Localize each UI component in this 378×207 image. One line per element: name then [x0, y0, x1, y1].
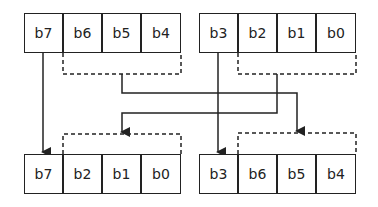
- bit-cell: b4: [141, 13, 181, 53]
- bit-cell: b1: [277, 13, 316, 53]
- bit-cell: b2: [238, 13, 277, 53]
- bit-cell: b1: [102, 154, 141, 194]
- bit-cell: b6: [238, 154, 277, 194]
- bit-cell: b7: [24, 13, 63, 53]
- bit-cell: b7: [24, 154, 63, 194]
- dashed-group-bottom-left: [63, 134, 181, 154]
- bit-cell: b5: [102, 13, 141, 53]
- bit-cell: b4: [316, 154, 356, 194]
- bit-cell: b3: [199, 13, 238, 53]
- dashed-group-top-right: [238, 53, 356, 74]
- dashed-group-top-left: [63, 53, 181, 74]
- arrow-b2-b0-to-left: [122, 74, 277, 132]
- bit-cell: b6: [63, 13, 102, 53]
- bit-cell: b2: [63, 154, 102, 194]
- dashed-group-bottom-right: [238, 133, 356, 154]
- bit-cell: b0: [141, 154, 181, 194]
- bit-cell: b0: [316, 13, 356, 53]
- bit-cell: b5: [277, 154, 316, 194]
- bit-cell: b3: [199, 154, 238, 194]
- arrow-b6-b4-to-right: [122, 74, 297, 131]
